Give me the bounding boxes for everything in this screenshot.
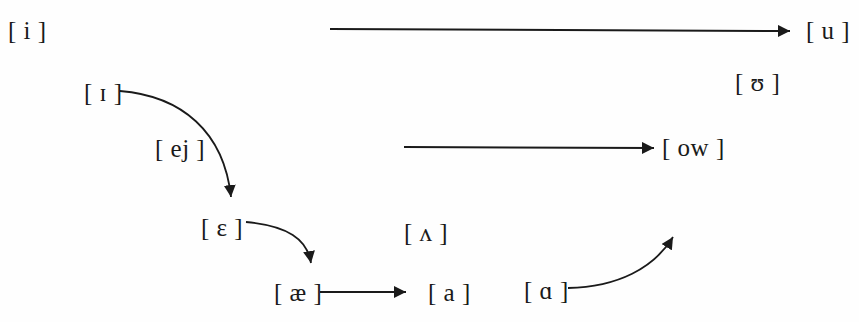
vowel-label-ow: [ ow ] bbox=[662, 135, 725, 160]
vowel-shift-figure: [ i ] [ u ] [ ʊ ] [ ɪ ] [ ow ] [ ɛ ] [ ʌ… bbox=[0, 0, 859, 322]
arrow-script-a-raised bbox=[568, 237, 673, 288]
vowel-label-epsilon: [ ɛ ] bbox=[201, 215, 243, 240]
shift-label-ej: [ ej ] bbox=[155, 136, 205, 161]
arrow-u-to-front bbox=[330, 29, 790, 31]
vowel-label-wedge: [ ʌ ] bbox=[404, 220, 448, 245]
arrow-epsilon-to-ae bbox=[246, 222, 311, 263]
vowel-label-small-cap-i: [ ɪ ] bbox=[84, 80, 123, 105]
vowel-label-script-a: [ ɑ ] bbox=[524, 278, 569, 303]
vowel-label-upsilon: [ ʊ ] bbox=[735, 70, 780, 95]
arrow-ow-to-front bbox=[404, 147, 654, 148]
vowel-label-a: [ a ] bbox=[428, 280, 471, 305]
vowel-label-i: [ i ] bbox=[8, 18, 47, 43]
vowel-label-ash: [ æ ] bbox=[274, 280, 322, 305]
arrow-layer bbox=[0, 0, 859, 322]
vowel-label-u: [ u ] bbox=[806, 18, 850, 43]
